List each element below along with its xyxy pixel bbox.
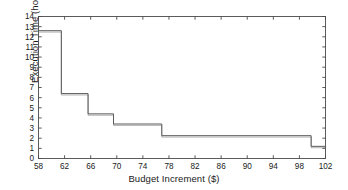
y-tick-label: 4 — [29, 114, 34, 123]
y-tick-label: 2 — [29, 134, 34, 143]
x-tick-label: 102 — [319, 162, 333, 171]
x-tick-label: 98 — [295, 162, 305, 171]
step-line-shadow — [39, 32, 326, 148]
x-tick-label: 66 — [86, 162, 96, 171]
x-tick-label: 94 — [269, 162, 279, 171]
step-series — [39, 31, 326, 148]
y-tick-label: 13 — [25, 23, 35, 32]
plot-area: 01234567891011121314 5862667074788286909… — [0, 0, 348, 190]
y-tick-label: 1 — [29, 144, 34, 153]
x-tick-label: 78 — [164, 162, 174, 171]
y-tick-label: 6 — [29, 94, 34, 103]
x-tick-label: 82 — [190, 162, 200, 171]
x-tick-label: 62 — [60, 162, 70, 171]
chart-figure: Execution Time (hour) Budget Increment (… — [0, 0, 348, 190]
y-tick-label: 8 — [29, 73, 34, 82]
y-tick-label: 14 — [25, 12, 35, 21]
y-tick-label: 7 — [29, 83, 34, 92]
y-tick-label: 9 — [29, 63, 34, 72]
step-line — [39, 31, 326, 147]
y-tick-label: 10 — [25, 53, 35, 62]
y-tick-label: 3 — [29, 124, 34, 133]
x-tick-label: 58 — [34, 162, 44, 171]
y-tick-label: 12 — [25, 33, 35, 42]
y-axis-ticks: 01234567891011121314 — [25, 12, 326, 163]
y-tick-label: 11 — [26, 43, 35, 52]
x-tick-label: 86 — [217, 162, 227, 171]
x-tick-label: 70 — [112, 162, 122, 171]
x-tick-label: 74 — [138, 162, 148, 171]
x-tick-label: 90 — [243, 162, 253, 171]
y-tick-label: 5 — [29, 104, 34, 113]
